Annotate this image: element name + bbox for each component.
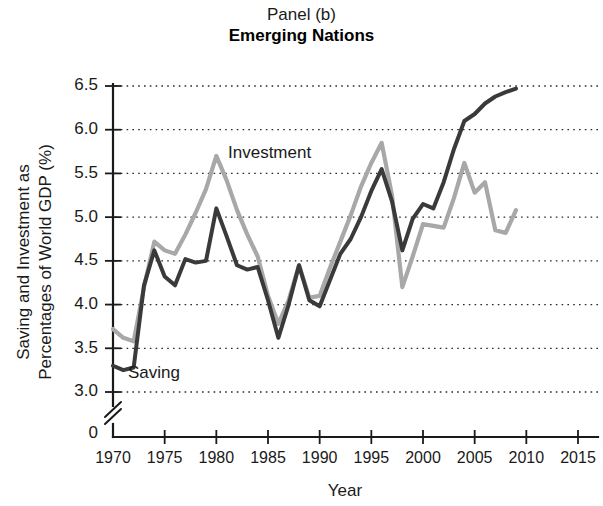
y-tick-label: 3.0 (74, 381, 98, 400)
y-tick-label: 6.0 (74, 119, 98, 138)
chart-plot-area: 03.03.54.04.55.05.56.06.5 19701975198019… (0, 0, 603, 506)
x-tick-label: 1995 (354, 449, 390, 466)
x-tick-label: 2015 (560, 449, 596, 466)
x-tick-label: 1985 (250, 449, 286, 466)
investment-line (113, 143, 516, 341)
x-tick-label: 2005 (457, 449, 493, 466)
x-tick-label: 1990 (302, 449, 338, 466)
saving-annotation: Saving (128, 363, 180, 382)
x-tick-label: 1970 (95, 449, 131, 466)
y-tick-label: 5.5 (74, 163, 98, 182)
x-tick-label: 2010 (509, 449, 545, 466)
investment-annotation: Investment (228, 143, 311, 162)
x-tick-group: 1970197519801985199019952000200520102015 (95, 430, 596, 466)
y-axis-title-line1: Saving and Investment as (14, 164, 33, 360)
y-tick-label: 4.5 (74, 250, 98, 269)
y-tick-label: 5.0 (74, 207, 98, 226)
y-tick-label: 4.0 (74, 294, 98, 313)
gridlines-group (115, 86, 598, 392)
chart-figure: Panel (b) Emerging Nations 03.03.54.04.5… (0, 0, 603, 506)
x-tick-label: 1980 (199, 449, 235, 466)
saving-line (113, 89, 516, 371)
y-tick-label: 6.5 (74, 75, 98, 94)
y-tick-label: 0 (89, 423, 98, 442)
y-tick-label: 3.5 (74, 338, 98, 357)
x-axis-title: Year (328, 481, 363, 500)
x-tick-label: 1975 (147, 449, 183, 466)
y-axis-title-line2: Percentages of World GDP (%) (36, 144, 55, 380)
x-tick-label: 2000 (405, 449, 441, 466)
